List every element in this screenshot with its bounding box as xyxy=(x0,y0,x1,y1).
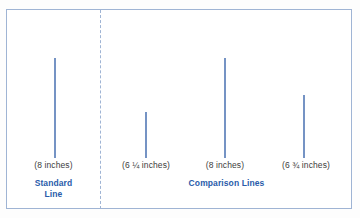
comparison-line-1-caption: (6 ¼ inches) xyxy=(106,160,186,170)
standard-heading-line1: Standard xyxy=(35,178,73,188)
line-judgment-figure: (8 inches) Standard Line (6 ¼ inches) (8… xyxy=(0,0,360,218)
comparison-line-2 xyxy=(224,58,226,158)
standard-line-caption: (8 inches) xyxy=(7,160,100,170)
comparison-line-3-caption: (6 ¾ inches) xyxy=(264,160,348,170)
standard-heading-line2: Line xyxy=(45,189,63,199)
standard-section-heading: Standard Line xyxy=(7,178,100,200)
standard-line-slot: (8 inches) Standard Line xyxy=(7,10,100,208)
comparison-section-heading: Comparison Lines xyxy=(101,178,352,189)
comparison-line-3 xyxy=(303,95,305,158)
comparison-line-2-caption: (8 inches) xyxy=(185,160,265,170)
comparison-lines-slot: (6 ¼ inches) (8 inches) (6 ¾ inches) Com… xyxy=(101,10,352,208)
figure-panel: (8 inches) Standard Line (6 ¼ inches) (8… xyxy=(6,9,352,209)
standard-line xyxy=(54,58,56,158)
comparison-line-1 xyxy=(145,112,147,158)
